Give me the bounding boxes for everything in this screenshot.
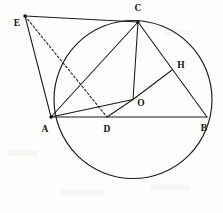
point-label-d: D (104, 125, 111, 135)
segment-EC (25, 16, 138, 22)
point-label-c: C (135, 4, 142, 14)
vertex-dots-group (23, 14, 139, 118)
geometry-canvas (0, 0, 223, 213)
vertex-dot-a (49, 115, 52, 118)
segment-ED (25, 16, 107, 117)
segment-CO (133, 22, 138, 100)
vertex-dot-c (136, 20, 139, 23)
segment-EA (25, 16, 51, 117)
segment-CB (138, 22, 207, 117)
point-label-h: H (177, 61, 184, 71)
segment-AC (51, 22, 138, 117)
point-label-b: B (201, 124, 207, 134)
point-label-a: A (42, 125, 49, 135)
segment-OH (133, 70, 172, 100)
vertex-dot-e (23, 14, 26, 17)
point-label-o: O (137, 99, 144, 109)
geometry-figure: ECHOADB (0, 0, 223, 213)
point-label-e: E (14, 19, 20, 29)
